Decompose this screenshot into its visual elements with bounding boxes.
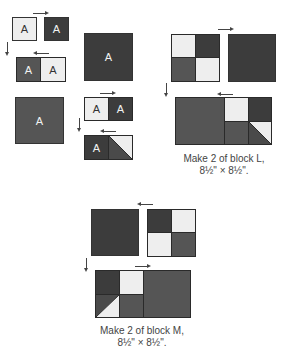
patch-light xyxy=(171,209,196,233)
caption-block-l: Make 2 of block L, 8½" × 8½". xyxy=(170,153,278,177)
arrow-head-down-4 xyxy=(84,268,88,272)
arrow-head-down-2 xyxy=(77,128,81,132)
piece-label: A xyxy=(105,51,112,63)
caption-line-1: Make 2 of block L, xyxy=(170,153,278,165)
pair-a-row: A A xyxy=(16,57,66,82)
four-patch-l xyxy=(171,34,220,82)
patch-medium xyxy=(171,232,196,257)
piece-a-dark: A xyxy=(108,97,133,121)
patch-light xyxy=(195,57,220,82)
arrow-left-3 xyxy=(219,94,233,95)
arrow-head-right-2 xyxy=(112,91,116,95)
piece-label: A xyxy=(21,23,28,35)
arrow-left-1 xyxy=(35,53,49,54)
arrow-left-4 xyxy=(139,204,153,205)
arrow-head-left-1 xyxy=(33,51,37,55)
half-square-triangle xyxy=(95,294,120,318)
piece-label: A xyxy=(93,103,100,115)
caption-line-2: 8½" × 8½". xyxy=(170,165,278,177)
pair-a-triangle: A xyxy=(84,135,133,160)
arrow-head-left-3 xyxy=(217,92,221,96)
patch-medium xyxy=(224,121,249,145)
caption-block-m: Make 2 of block M, 8½" × 8½". xyxy=(88,325,196,349)
patch-dark xyxy=(147,209,172,233)
patch-dark xyxy=(195,34,220,58)
patch-dark xyxy=(248,97,272,122)
piece-a-light: A xyxy=(12,17,37,41)
large-a-square-2: A xyxy=(15,97,64,144)
patch-light xyxy=(224,97,249,122)
block-m xyxy=(95,270,191,318)
patch-medium xyxy=(171,57,196,82)
caption-line-1: Make 2 of block M, xyxy=(88,325,196,337)
arrow-head-right-3 xyxy=(230,27,234,31)
large-a-square-1: A xyxy=(84,33,133,81)
triangle-unit-icon xyxy=(109,136,132,159)
patch-medium xyxy=(119,294,144,318)
arrow-head-left-2 xyxy=(100,129,104,133)
arrow-left-2 xyxy=(102,131,116,132)
piece-a-dark: A xyxy=(84,135,109,160)
caption-line-2: 8½" × 8½". xyxy=(88,337,196,349)
arrow-head-left-4 xyxy=(137,202,141,206)
piece-label: A xyxy=(93,142,100,154)
large-square-m xyxy=(91,209,139,256)
patch-light xyxy=(147,232,172,257)
arrow-head-right-1 xyxy=(45,11,49,15)
block-l-large-half xyxy=(175,97,225,145)
block-l xyxy=(175,97,272,145)
piece-a-medium: A xyxy=(16,57,41,82)
piece-label: A xyxy=(25,64,32,76)
half-square-triangle xyxy=(108,135,133,160)
large-square-l xyxy=(228,34,276,82)
piece-a-light: A xyxy=(84,97,109,121)
half-square-triangle xyxy=(248,121,272,145)
piece-label: A xyxy=(53,23,60,35)
triangle-unit-icon xyxy=(96,295,119,317)
piece-label: A xyxy=(117,103,124,115)
arrow-head-right-4 xyxy=(147,264,151,268)
arrow-head-down-1 xyxy=(5,52,9,56)
patch-dark xyxy=(95,270,120,295)
pair-a-light-dark: A A xyxy=(84,97,133,121)
patch-light xyxy=(119,270,144,295)
triangle-unit-icon xyxy=(249,122,271,144)
four-patch-m xyxy=(147,209,196,257)
block-m-large-half xyxy=(143,270,191,318)
patch-light xyxy=(171,34,196,58)
piece-label: A xyxy=(49,64,56,76)
piece-a-light: A xyxy=(40,57,66,82)
piece-a-dark: A xyxy=(44,17,69,41)
arrow-head-down-3 xyxy=(164,93,168,97)
piece-label: A xyxy=(36,115,43,127)
